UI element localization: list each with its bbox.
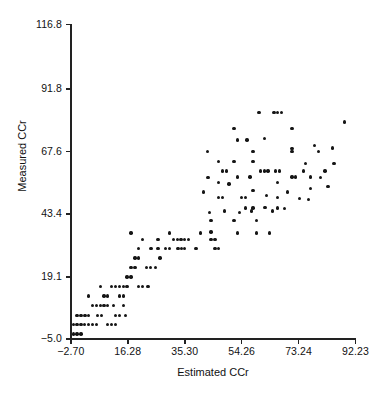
- scatter-point: [238, 211, 241, 214]
- scatter-point: [91, 304, 94, 307]
- scatter-point: [213, 238, 216, 241]
- scatter-point: [154, 266, 157, 269]
- scatter-point: [236, 175, 239, 178]
- x-axis-title: Estimated CCr: [70, 366, 356, 378]
- x-tick-label: 16.28: [98, 345, 158, 357]
- scatter-point: [209, 219, 212, 222]
- scatter-point: [245, 138, 248, 141]
- scatter-point: [209, 238, 212, 241]
- scatter-point: [99, 304, 102, 307]
- y-tick-mark: [66, 88, 71, 90]
- scatter-point: [272, 111, 275, 114]
- scatter-point: [102, 294, 105, 297]
- scatter-point: [290, 175, 293, 178]
- scatter-point: [290, 147, 293, 150]
- x-tick-mark: [127, 339, 129, 344]
- scatter-point: [145, 266, 148, 269]
- scatter-point: [259, 169, 262, 172]
- scatter-point: [137, 285, 140, 288]
- scatter-point: [268, 231, 271, 234]
- x-tick-label: 92.23: [326, 345, 380, 357]
- scatter-point: [95, 323, 98, 326]
- scatter-point: [227, 182, 230, 185]
- scatter-point: [156, 238, 159, 241]
- scatter-point: [118, 285, 121, 288]
- y-tick-mark: [66, 276, 71, 278]
- scatter-point: [209, 230, 212, 233]
- scatter-point: [133, 256, 136, 259]
- y-tick-label: 91.8: [0, 82, 62, 94]
- scatter-point: [223, 209, 226, 212]
- scatter-point: [106, 304, 109, 307]
- scatter-point: [313, 144, 316, 147]
- scatter-point: [232, 127, 235, 130]
- scatter-point: [129, 275, 132, 278]
- scatter-point: [183, 247, 186, 250]
- scatter-point: [106, 294, 109, 297]
- scatter-point: [225, 169, 228, 172]
- scatter-point: [122, 294, 125, 297]
- scatter-point: [102, 304, 105, 307]
- scatter-point: [137, 256, 140, 259]
- scatter-point: [280, 111, 283, 114]
- scatter-point: [149, 247, 152, 250]
- scatter-point: [217, 181, 220, 184]
- y-tick-label: 19.1: [0, 270, 62, 282]
- scatter-point: [72, 332, 75, 335]
- scatter-point: [199, 231, 202, 234]
- scatter-point: [263, 169, 266, 172]
- scatter-point: [133, 266, 136, 269]
- scatter-point: [317, 150, 320, 153]
- scatter-point: [129, 266, 132, 269]
- scatter-point: [217, 196, 220, 199]
- scatter-point: [79, 332, 82, 335]
- scatter-point: [202, 190, 205, 193]
- scatter-point: [114, 285, 117, 288]
- scatter-point: [194, 247, 197, 250]
- scatter-point: [309, 175, 312, 178]
- scatter-point: [187, 238, 190, 241]
- scatter-point: [110, 323, 113, 326]
- scatter-point: [298, 197, 301, 200]
- scatter-point: [176, 238, 179, 241]
- scatter-point: [149, 266, 152, 269]
- x-tick-mark: [241, 339, 243, 344]
- scatter-point: [274, 169, 277, 172]
- scatter-point: [263, 137, 266, 140]
- scatter-point: [244, 206, 247, 209]
- y-axis-title: Measured CCr: [16, 86, 28, 226]
- scatter-point: [141, 285, 144, 288]
- y-axis-line: [70, 24, 72, 340]
- scatter-point: [141, 238, 144, 241]
- scatter-point: [302, 169, 305, 172]
- scatter-point: [172, 238, 175, 241]
- scatter-point: [158, 256, 161, 259]
- scatter-point: [110, 285, 113, 288]
- scatter-point: [96, 314, 99, 317]
- scatter-point: [251, 160, 254, 163]
- scatter-point: [263, 206, 266, 209]
- scatter-point: [124, 314, 127, 317]
- scatter-point: [87, 294, 90, 297]
- scatter-point: [276, 111, 279, 114]
- scatter-point: [307, 198, 310, 201]
- scatter-point: [180, 247, 183, 250]
- scatter-point: [79, 323, 82, 326]
- scatter-point: [332, 162, 335, 165]
- scatter-point: [87, 314, 90, 317]
- scatter-point: [251, 150, 254, 153]
- scatter-point: [290, 150, 293, 153]
- scatter-point: [206, 150, 209, 153]
- scatter-point: [232, 219, 235, 222]
- scatter-point: [278, 169, 281, 172]
- scatter-point: [118, 294, 121, 297]
- y-tick-label: 116.8: [0, 18, 62, 30]
- scatter-point: [168, 231, 171, 234]
- scatter-point: [112, 304, 115, 307]
- scatter-point: [183, 238, 186, 241]
- x-tick-label: 73.24: [269, 345, 329, 357]
- scatter-point: [304, 162, 307, 165]
- scatter-point: [251, 189, 254, 192]
- scatter-point: [276, 206, 279, 209]
- scatter-point: [319, 176, 322, 179]
